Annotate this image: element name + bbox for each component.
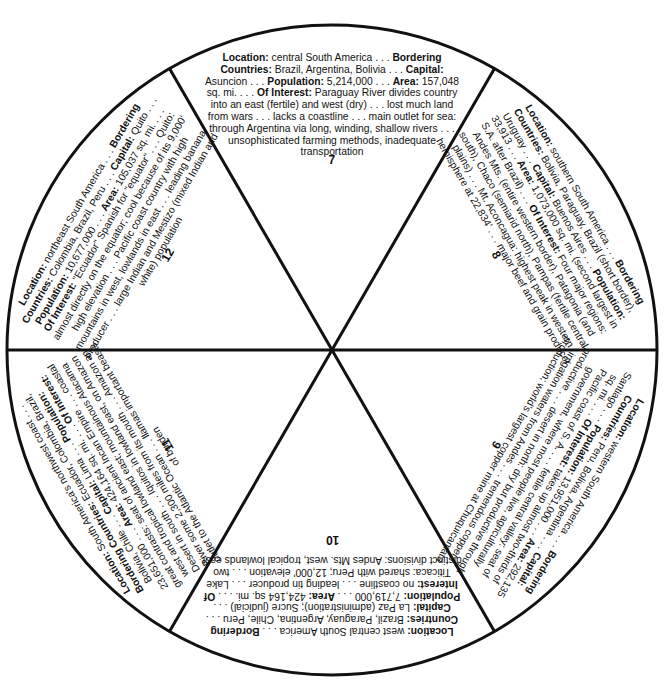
- value-location: central South America . . .: [269, 52, 393, 63]
- label-capital: Capital:: [406, 64, 444, 75]
- value-capital: La Paz (administration); Sucre (judicial…: [213, 601, 413, 612]
- label-location: Location:: [222, 52, 268, 63]
- wedge-number-7: 7: [329, 153, 336, 167]
- value-location: west central South America . . .: [260, 625, 408, 636]
- value-capital: Asuncion . . .: [205, 76, 267, 87]
- wedge-text-7: Location: central South America . . . Bo…: [202, 52, 462, 158]
- wedge-text-10: Location: west central South America . .…: [202, 554, 462, 637]
- label-area: Area:: [309, 590, 335, 601]
- value-area: 424,164 sq. mi. . . .: [215, 590, 308, 601]
- wedge-number-10: 10: [326, 533, 339, 547]
- value-bordering: Brazil, Argentina, Bolivia . . .: [272, 64, 406, 75]
- label-capital: Capital:: [413, 601, 451, 612]
- value-population: 7,719,000 . . .: [335, 590, 404, 601]
- label-area: Area:: [393, 76, 419, 87]
- label-population: Population:: [267, 76, 324, 87]
- value-population: 5,214,000 . . .: [324, 76, 393, 87]
- value-bordering: Brazil, Paraguay, Argentina, Chile, Peru…: [206, 613, 407, 624]
- label-location: Location:: [407, 625, 453, 636]
- label-population: Population:: [404, 590, 461, 601]
- label-interest: Of Interest:: [257, 87, 312, 98]
